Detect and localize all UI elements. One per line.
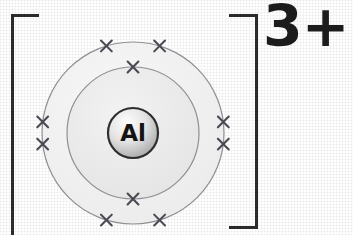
bracket-right xyxy=(229,14,258,229)
nucleus-symbol-label: Al xyxy=(120,120,146,146)
charge-label: 3+ xyxy=(263,0,348,55)
bracket-left xyxy=(11,14,39,235)
diagram-canvas: Al 3+ xyxy=(0,0,353,235)
